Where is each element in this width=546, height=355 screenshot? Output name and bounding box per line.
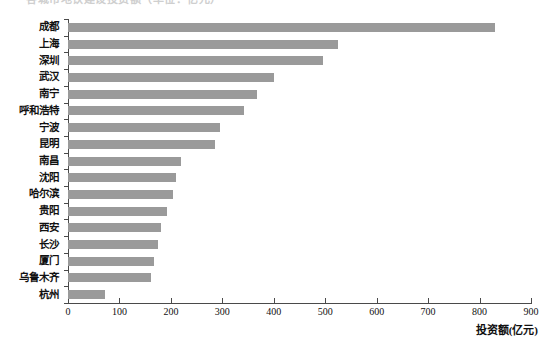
y-axis-tick bbox=[64, 119, 69, 120]
y-axis-tick bbox=[64, 186, 69, 187]
y-axis-label: 南昌 bbox=[39, 155, 59, 166]
y-axis-tick bbox=[64, 219, 69, 220]
x-axis-tick-label: 400 bbox=[254, 306, 294, 318]
chart-title-text: 各城市地铁建设投资额（单位：亿元） bbox=[26, 0, 266, 5]
x-axis-line bbox=[68, 303, 532, 304]
y-axis-tick bbox=[64, 19, 69, 20]
y-axis-tick bbox=[64, 136, 69, 137]
y-axis-label: 西安 bbox=[39, 222, 59, 233]
bar bbox=[68, 90, 257, 99]
y-axis-label: 哈尔滨 bbox=[29, 188, 59, 199]
y-axis-tick bbox=[64, 303, 69, 304]
x-axis-tick bbox=[325, 298, 326, 303]
y-axis-tick bbox=[64, 203, 69, 204]
y-axis-label: 长沙 bbox=[39, 239, 59, 250]
x-axis-tick-label: 800 bbox=[460, 306, 500, 318]
bar-chart: 各城市地铁建设投资额（单位：亿元） 成都上海深圳武汉南宁呼和浩特宁波昆明南昌沈阳… bbox=[0, 0, 546, 355]
x-axis-tick-label: 700 bbox=[408, 306, 448, 318]
y-axis-tick bbox=[64, 253, 69, 254]
y-axis-tick bbox=[64, 169, 69, 170]
bar bbox=[68, 23, 495, 32]
y-axis-label: 杭州 bbox=[39, 289, 59, 300]
bar bbox=[68, 73, 274, 82]
x-axis-tick-label: 900 bbox=[511, 306, 546, 318]
x-axis-title: 投资额(亿元) bbox=[476, 324, 538, 337]
y-axis-label: 呼和浩特 bbox=[19, 105, 59, 116]
bar bbox=[68, 190, 173, 199]
bar bbox=[68, 157, 181, 166]
bar bbox=[68, 257, 154, 266]
y-axis-label: 南宁 bbox=[39, 88, 59, 99]
y-axis-tick bbox=[64, 236, 69, 237]
bar bbox=[68, 207, 167, 216]
y-axis-tick bbox=[64, 52, 69, 53]
bar bbox=[68, 240, 158, 249]
y-axis-tick bbox=[64, 86, 69, 87]
bar bbox=[68, 173, 176, 182]
bar bbox=[68, 140, 215, 149]
y-axis-label: 成都 bbox=[39, 21, 59, 32]
y-axis-label: 武汉 bbox=[39, 71, 59, 82]
y-axis-label: 深圳 bbox=[39, 55, 59, 66]
x-axis-tick bbox=[531, 298, 532, 303]
x-axis-tick bbox=[377, 298, 378, 303]
y-axis-category-labels: 成都上海深圳武汉南宁呼和浩特宁波昆明南昌沈阳哈尔滨贵阳西安长沙厦门乌鲁木齐杭州 bbox=[0, 19, 64, 302]
y-axis-tick bbox=[64, 153, 69, 154]
y-axis-tick bbox=[64, 69, 69, 70]
x-axis-tick bbox=[274, 298, 275, 303]
x-axis-tick-label: 600 bbox=[357, 306, 397, 318]
y-axis-label: 厦门 bbox=[39, 255, 59, 266]
y-axis-label: 上海 bbox=[39, 38, 59, 49]
bar bbox=[68, 56, 323, 65]
bar bbox=[68, 290, 105, 299]
bar bbox=[68, 106, 244, 115]
plot-area bbox=[68, 19, 531, 302]
y-axis-tick bbox=[64, 103, 69, 104]
bar bbox=[68, 223, 161, 232]
y-axis-tick bbox=[64, 36, 69, 37]
x-axis-tick-label: 200 bbox=[151, 306, 191, 318]
x-axis-tick bbox=[119, 298, 120, 303]
y-axis-label: 宁波 bbox=[39, 122, 59, 133]
x-axis-tick-label: 100 bbox=[99, 306, 139, 318]
x-axis-tick-label: 500 bbox=[305, 306, 345, 318]
x-axis-tick bbox=[480, 298, 481, 303]
y-axis-label: 沈阳 bbox=[39, 172, 59, 183]
x-axis-tick-label: 300 bbox=[202, 306, 242, 318]
x-axis-tick bbox=[222, 298, 223, 303]
chart-title-clipped: 各城市地铁建设投资额（单位：亿元） bbox=[26, 0, 266, 5]
y-axis-label: 贵阳 bbox=[39, 205, 59, 216]
x-axis-tick-label: 0 bbox=[48, 306, 88, 318]
y-axis-tick bbox=[64, 286, 69, 287]
x-axis-tick bbox=[171, 298, 172, 303]
y-axis-tick bbox=[64, 270, 69, 271]
bar bbox=[68, 123, 220, 132]
y-axis-label: 昆明 bbox=[39, 138, 59, 149]
x-axis-tick bbox=[428, 298, 429, 303]
bar bbox=[68, 273, 151, 282]
bar bbox=[68, 40, 338, 49]
y-axis-label: 乌鲁木齐 bbox=[19, 272, 59, 283]
